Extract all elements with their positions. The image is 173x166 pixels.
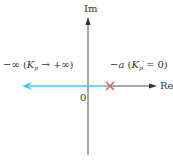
right-pole-label: −a (Kp = 0) [110, 60, 168, 71]
root-locus-plot [0, 0, 173, 166]
re-axis-label: Re [160, 81, 173, 91]
im-axis-arrow-icon [86, 17, 91, 25]
left-limit-label: −∞ (Kp → +∞) [3, 60, 74, 71]
im-axis-label: Im [84, 4, 97, 14]
origin-label: 0 [80, 93, 86, 103]
re-axis-arrow-icon [149, 84, 157, 89]
